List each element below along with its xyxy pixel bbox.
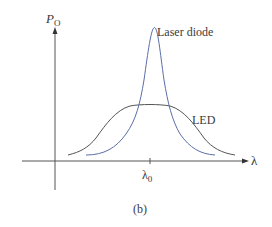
x-tick-label-sub: 0 bbox=[148, 174, 153, 184]
x-axis-arrow-icon bbox=[242, 159, 249, 164]
spectrum-diagram bbox=[0, 0, 272, 227]
x-tick-label: λ0 bbox=[142, 169, 152, 181]
y-axis-label: PO bbox=[46, 12, 60, 25]
x-tick-label-main: λ bbox=[142, 168, 148, 182]
figure-caption: (b) bbox=[133, 203, 147, 215]
y-axis-label-sub: O bbox=[54, 18, 61, 28]
laser-diode-curve bbox=[86, 28, 215, 156]
y-axis-arrow-icon bbox=[53, 27, 58, 34]
led-label: LED bbox=[192, 114, 215, 126]
laser-diode-label: Laser diode bbox=[157, 26, 213, 38]
y-axis-label-main: P bbox=[46, 11, 54, 26]
x-axis-label: λ bbox=[251, 154, 257, 167]
